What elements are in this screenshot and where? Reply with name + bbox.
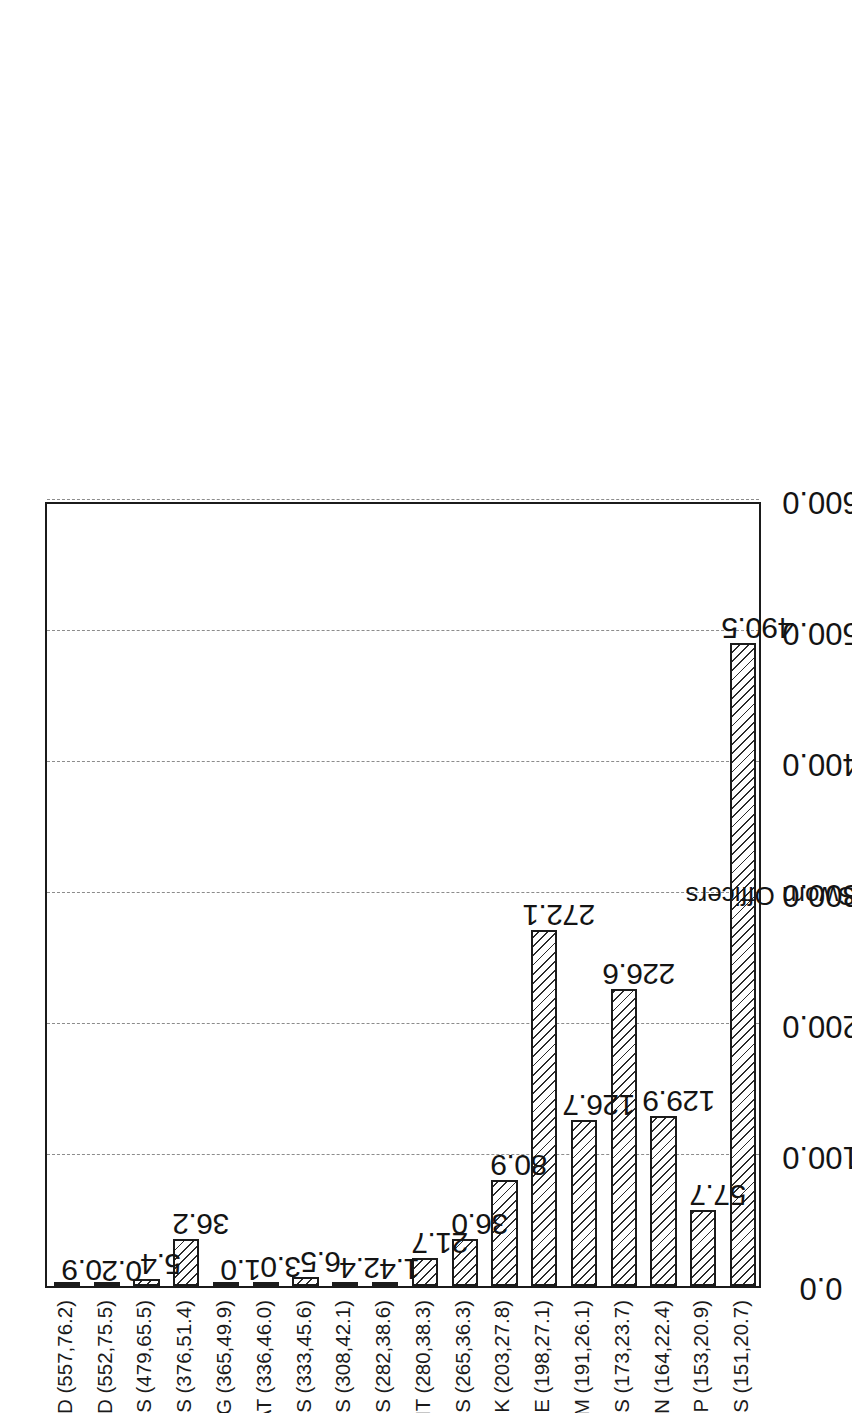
value-tick-label: 100.0 (782, 1139, 852, 1175)
category-label: COME-ALONGS (173,23.7) (610, 1300, 634, 1413)
category-label: BODILY FORCE (198,27.1) (530, 1300, 554, 1413)
category-label: FLASHLIGHT (280,38.3) (411, 1300, 435, 1413)
bar[interactable] (531, 930, 557, 1286)
category-label: NECK RESTRAINTS (282,38.6) (371, 1300, 395, 1413)
category-label: UNHOLSTER WEAPON (164,22.4) (650, 1300, 674, 1413)
category-label: TWIST LOCK (203,27.8) (490, 1300, 514, 1413)
value-axis-title: Number per 1,000 Sworn Officers (686, 880, 852, 911)
bar-value-label: 0.9 (62, 1253, 102, 1287)
value-tick-label: 0.0 (799, 1270, 842, 1306)
category-label: ELECTRICAL DEVICES (479,65.5) (132, 1300, 156, 1413)
bar-chart: 0.0100.0200.0300.0400.0500.0600.0 Number… (0, 0, 852, 1413)
bar[interactable] (650, 1116, 676, 1286)
bar-value-label: 126.7 (563, 1088, 636, 1122)
category-label: CIVILIANS SHOT AND KILLED (557,76.2) (53, 1300, 77, 1413)
figure-rotator: 0.0100.0200.0300.0400.0500.0600.0 Number… (0, 0, 852, 1413)
bar-value-label: 3.0 (261, 1250, 301, 1284)
bar[interactable] (571, 1120, 597, 1286)
bar-value-label: 272.1 (523, 898, 596, 932)
category-label: FIRM GRIP (153,20.9) (689, 1300, 713, 1413)
bar-value-label: 36.0 (451, 1207, 507, 1241)
bar-value-label: 226.6 (602, 957, 675, 991)
category-label: BATONS (265,36.3) (451, 1300, 475, 1413)
category-label: SWARM (191,26.1) (570, 1300, 594, 1413)
bar-value-label: 5.4 (141, 1247, 181, 1281)
bar-value-label: 490.5 (722, 611, 795, 645)
plot-area (45, 502, 761, 1288)
category-label: HANDCUFFS (151,20.7) (729, 1300, 753, 1413)
bar-value-label: 129.9 (642, 1084, 715, 1118)
value-tick-label: 200.0 (782, 1008, 852, 1044)
bar-value-label: 1.0 (221, 1253, 261, 1287)
bar-value-label: 0.2 (102, 1254, 142, 1288)
bars (47, 504, 759, 1286)
category-label: DOG ATTACKS (333,45.6) (292, 1300, 316, 1413)
value-tick-label: 600.0 (782, 484, 852, 520)
gridline (47, 499, 759, 500)
bar-value-label: 6.5 (300, 1246, 340, 1280)
bar[interactable] (611, 989, 637, 1286)
value-tick-label: 400.0 (782, 746, 852, 782)
category-label: CHEMICAL AGENTS (376,51.4) (172, 1300, 196, 1413)
category-label: VEHICLE RAMMING (365,49.9) (212, 1300, 236, 1413)
category-label: OTHER IMPACT DEVICES (308,42.1) (331, 1300, 355, 1413)
bar[interactable] (690, 1210, 716, 1286)
bar-value-label: 80.9 (491, 1148, 547, 1182)
bar-value-label: 57.7 (690, 1178, 746, 1212)
category-label: CIVILIANS SHOT AND WOUNDED (552,75.5) (93, 1300, 117, 1413)
bar-value-label: 36.2 (173, 1207, 229, 1241)
category-label: CIVILIANS SHOT AT (336,46.0) (252, 1300, 276, 1413)
bar-value-label: 2.4 (340, 1251, 380, 1285)
